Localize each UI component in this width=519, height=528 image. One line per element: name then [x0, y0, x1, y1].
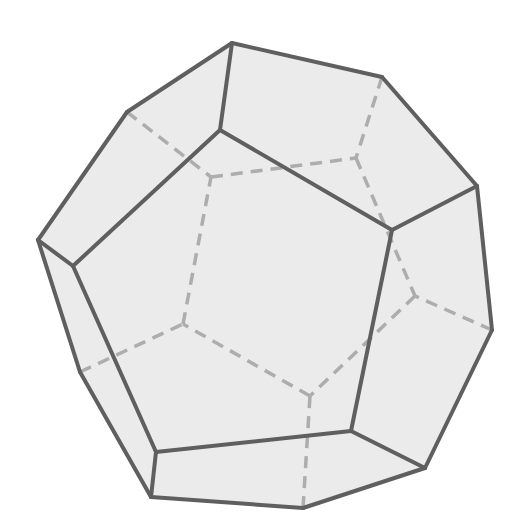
dodecahedron-figure — [0, 0, 519, 528]
diagram-canvas: Dodecahedron — [0, 0, 519, 528]
